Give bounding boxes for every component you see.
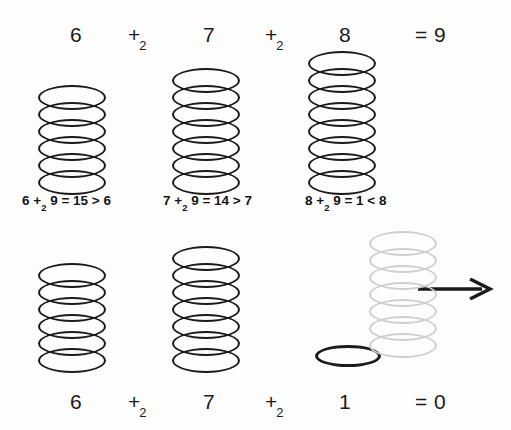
- bottom-term-2: 1: [339, 391, 351, 412]
- ring: [172, 68, 240, 93]
- bottom-term-1: 7: [203, 391, 215, 412]
- top-term-1: 7: [203, 24, 215, 45]
- ring: [369, 231, 437, 256]
- bottom-stack-6: [38, 263, 106, 373]
- ring: [308, 51, 376, 76]
- equation-2: 8 +2 9 = 1 < 8: [305, 194, 387, 210]
- ring: [38, 263, 106, 288]
- equation-2-subscript: 2: [324, 202, 329, 213]
- bottom-term-0: 6: [70, 391, 82, 412]
- equation-0-head: 6 +: [22, 193, 41, 208]
- nim-addition-figure: 6 +2 7 +2 8 = 9 6 +2 9 = 15 > 6 7 +2 9 =…: [0, 0, 511, 430]
- bottom-stack-7: [172, 246, 240, 373]
- equation-1-subscript: 2: [182, 202, 187, 213]
- equation-1-tail: 9 = 14 > 7: [187, 193, 252, 208]
- top-operator-1: +2: [265, 24, 285, 49]
- equation-0-subscript: 2: [41, 202, 46, 213]
- equation-2-tail: 9 = 1 < 8: [329, 193, 386, 208]
- top-stack-7: [172, 68, 240, 195]
- top-term-0: 6: [70, 24, 82, 45]
- ring: [38, 85, 106, 110]
- equation-2-head: 8 +: [305, 193, 324, 208]
- equation-1: 7 +2 9 = 14 > 7: [163, 194, 252, 210]
- top-term-2: 8: [339, 24, 351, 45]
- bottom-result: = 0: [415, 391, 446, 412]
- equation-0-tail: 9 = 15 > 6: [46, 193, 111, 208]
- equation-0: 6 +2 9 = 15 > 6: [22, 194, 111, 210]
- top-result: = 9: [415, 24, 446, 45]
- bottom-stack-faded-7: [369, 231, 437, 358]
- bottom-operator-1: +2: [265, 391, 285, 416]
- top-operator-0: +2: [128, 24, 148, 49]
- ring: [172, 246, 240, 271]
- bottom-operator-0: +2: [128, 391, 148, 416]
- top-stack-6: [38, 85, 106, 195]
- top-stack-8: [308, 51, 376, 195]
- top-operator-1-subscript: 2: [276, 38, 283, 53]
- equation-1-head: 7 +: [163, 193, 182, 208]
- bottom-operator-1-subscript: 2: [276, 405, 283, 420]
- bottom-operator-0-subscript: 2: [139, 405, 146, 420]
- top-operator-0-subscript: 2: [139, 38, 146, 53]
